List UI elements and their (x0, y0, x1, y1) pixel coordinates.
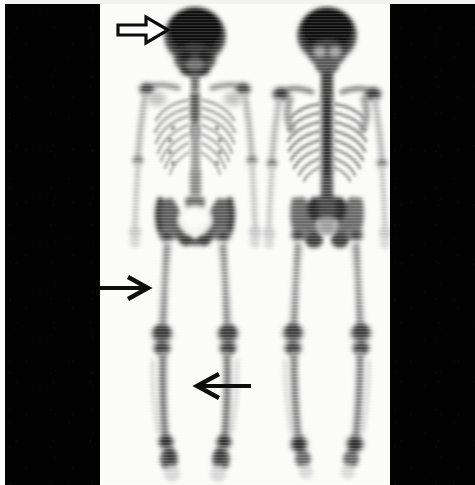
bone-scintigraphy-figure: Whole-body bone scintigram, anterior and… (0, 0, 475, 485)
arrow-left-femur-annotation (98, 274, 154, 302)
outlined-arrow-icon (118, 17, 168, 43)
letterbox-bar-right (390, 0, 475, 485)
arrow-right-tibia-annotation (193, 372, 255, 400)
scintigram-scan-field (100, 4, 390, 485)
arrow-skull-annotation (116, 12, 172, 48)
film-left-edge (0, 0, 5, 485)
letterbox-bar-left (5, 0, 100, 485)
scintigram-image (100, 4, 390, 485)
film-top-edge (0, 0, 475, 4)
